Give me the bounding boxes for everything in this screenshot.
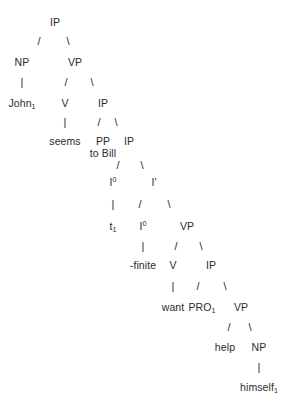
- tree-branch: \: [66, 36, 69, 47]
- tree-node-tobill: to Bill: [90, 148, 116, 159]
- tree-branch: /: [138, 199, 141, 210]
- tree-node-label: himself: [240, 381, 274, 393]
- tree-branch: |: [112, 199, 115, 210]
- tree-node-vp-2: VP: [180, 221, 194, 232]
- tree-branch: \: [90, 77, 93, 88]
- tree-branch: /: [64, 77, 67, 88]
- tree-branch: /: [116, 160, 119, 171]
- tree-branch: |: [64, 117, 67, 128]
- tree-node-ip-3: IP: [124, 136, 134, 147]
- tree-node-label: VP: [68, 56, 82, 68]
- tree-node-label: NP: [252, 341, 267, 353]
- tree-node-v-seems: V: [61, 98, 68, 109]
- tree-node-label: IP: [98, 97, 108, 109]
- tree-node-help: help: [215, 342, 235, 353]
- tree-branch: \: [248, 322, 251, 333]
- tree-branch: \: [114, 117, 117, 128]
- tree-node-subscript: 1: [32, 102, 36, 111]
- tree-node-label: to Bill: [90, 147, 116, 159]
- tree-node-np-subj: NP: [15, 57, 30, 68]
- tree-node-label: John: [8, 97, 31, 109]
- tree-node-label: help: [215, 341, 235, 353]
- tree-node-vp-3: VP: [234, 302, 248, 313]
- tree-node-subscript: 1: [212, 306, 216, 315]
- tree-node-label: VP: [234, 301, 248, 313]
- tree-branch: /: [174, 241, 177, 252]
- tree-node-ip-4: IP: [206, 260, 216, 271]
- tree-node-label: VP: [180, 220, 194, 232]
- tree-node-finite: -finite: [130, 260, 156, 271]
- tree-node-label: NP: [15, 56, 30, 68]
- tree-node-label: V: [61, 97, 68, 109]
- tree-node-label: IP: [50, 16, 60, 28]
- tree-node-pro: PRO1: [188, 302, 215, 314]
- tree-node-superscript: 0: [113, 175, 117, 184]
- tree-node-subscript: 1: [274, 386, 278, 395]
- tree-branch: \: [223, 281, 226, 292]
- tree-node-ip-root: IP: [50, 17, 60, 28]
- tree-branch: /: [227, 322, 230, 333]
- tree-node-label: PRO: [188, 301, 211, 313]
- tree-branch: |: [21, 77, 24, 88]
- tree-node-superscript: 0: [143, 219, 147, 228]
- tree-branch: /: [37, 36, 40, 47]
- tree-node-np-obj: NP: [252, 342, 267, 353]
- tree-node-subscript: 1: [113, 225, 117, 234]
- tree-node-want: want: [162, 302, 185, 313]
- tree-node-john: John1: [8, 98, 35, 110]
- tree-node-vp-1: VP: [68, 57, 82, 68]
- tree-node-label: I': [151, 176, 156, 188]
- tree-node-label: want: [162, 301, 185, 313]
- tree-node-ip-2: IP: [98, 98, 108, 109]
- tree-node-i0-lower: I0: [139, 221, 146, 233]
- tree-branch: |: [258, 362, 261, 373]
- tree-node-label: PP: [96, 135, 110, 147]
- syntax-tree-diagram: /\|/\|/\/\|/\|/\|/\/\|IPNPVPJohn1VIPseem…: [0, 0, 290, 403]
- tree-node-i-bar: I': [151, 177, 156, 188]
- tree-branch: \: [167, 199, 170, 210]
- tree-node-label: IP: [206, 259, 216, 271]
- tree-branch: /: [97, 117, 100, 128]
- tree-node-label: seems: [49, 135, 80, 147]
- tree-node-pp-tobill: PP: [96, 136, 110, 147]
- tree-node-seems: seems: [49, 136, 80, 147]
- tree-node-i0-upper: I0: [109, 177, 116, 189]
- tree-branch: /: [196, 281, 199, 292]
- tree-branch: \: [199, 241, 202, 252]
- tree-node-label: IP: [124, 135, 134, 147]
- tree-node-himself: himself1: [240, 382, 278, 394]
- tree-node-label: -finite: [130, 259, 156, 271]
- tree-node-v-want: V: [169, 260, 176, 271]
- tree-branch: |: [172, 281, 175, 292]
- tree-node-trace-t1: t1: [109, 221, 116, 233]
- tree-branch: \: [140, 160, 143, 171]
- tree-branch: |: [142, 241, 145, 252]
- tree-node-label: V: [169, 259, 176, 271]
